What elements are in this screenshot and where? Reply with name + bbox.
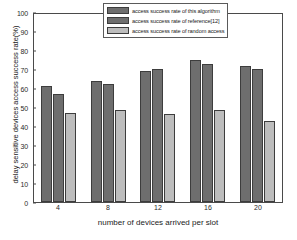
- bar-series-3: [264, 121, 275, 202]
- plot-area: [33, 13, 283, 203]
- bar-series-1: [240, 66, 251, 202]
- bar-series-2: [252, 69, 263, 202]
- y-tick-mark: [33, 146, 36, 147]
- x-tick-label: 12: [133, 204, 183, 218]
- bar-series-3: [115, 110, 126, 202]
- bar-series-3: [65, 113, 76, 202]
- bar-group: [140, 14, 175, 202]
- y-tick-label: 50: [21, 105, 28, 112]
- y-tick-label: 90: [21, 29, 28, 36]
- y-tick-mark: [33, 127, 36, 128]
- legend-item: access success rate of this algorithm: [107, 6, 224, 15]
- y-axis-label: delay sensitive devices access success r…: [11, 5, 20, 205]
- y-tick-mark: [33, 203, 36, 204]
- x-tick-label: 4: [33, 204, 83, 218]
- bar-series-1: [91, 81, 102, 202]
- x-tick-label: 8: [83, 204, 133, 218]
- bars-layer: [34, 14, 282, 202]
- y-tick-mark: [33, 70, 36, 71]
- legend-item: access success rate of reference[12]: [107, 16, 224, 25]
- y-tick-mark: [33, 13, 36, 14]
- bar-group: [41, 14, 76, 202]
- y-tick-label: 0: [24, 200, 28, 207]
- y-tick-label: 60: [21, 86, 28, 93]
- legend: access success rate of this algorithmacc…: [103, 3, 228, 38]
- legend-item: access success rate of random access: [107, 26, 224, 35]
- y-tick-mark: [33, 165, 36, 166]
- y-tick-mark: [33, 51, 36, 52]
- x-axis-label: number of devices arrived per slot: [33, 218, 283, 227]
- x-tick-label: 16: [183, 204, 233, 218]
- y-tick-label: 30: [21, 143, 28, 150]
- legend-swatch-series-1: [107, 7, 129, 14]
- bar-group: [91, 14, 126, 202]
- bar-series-3: [164, 114, 175, 202]
- legend-label: access success rate of reference[12]: [132, 18, 220, 24]
- bar-series-1: [41, 86, 52, 202]
- y-tick-label: 80: [21, 48, 28, 55]
- bar-group: [190, 14, 225, 202]
- bar-series-2: [152, 69, 163, 202]
- y-tick-mark: [33, 184, 36, 185]
- y-tick-label: 10: [21, 181, 28, 188]
- chart-figure: 0102030405060708090100 delay sensitive d…: [0, 0, 297, 240]
- bar-series-3: [214, 110, 225, 202]
- y-tick-label: 40: [21, 124, 28, 131]
- legend-label: access success rate of this algorithm: [132, 8, 220, 14]
- x-tick-label: 20: [233, 204, 283, 218]
- legend-label: access success rate of random access: [132, 28, 224, 34]
- bar-series-2: [53, 94, 64, 202]
- y-tick-mark: [33, 89, 36, 90]
- bar-series-2: [202, 64, 213, 202]
- y-tick-label: 70: [21, 67, 28, 74]
- bar-group: [240, 14, 275, 202]
- bar-series-1: [140, 71, 151, 202]
- y-tick-mark: [33, 32, 36, 33]
- legend-swatch-series-2: [107, 17, 129, 24]
- legend-swatch-series-3: [107, 27, 129, 34]
- y-tick-mark: [33, 108, 36, 109]
- bar-series-1: [190, 60, 201, 202]
- x-axis: 48121620: [33, 204, 283, 218]
- bar-series-2: [103, 84, 114, 202]
- y-tick-label: 20: [21, 162, 28, 169]
